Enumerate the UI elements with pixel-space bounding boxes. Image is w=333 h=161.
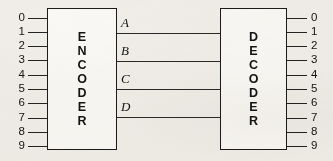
- bus-line-label: B: [121, 44, 129, 57]
- decoder-block: DECODER: [220, 8, 287, 150]
- decoder-letter: R: [249, 114, 258, 128]
- encoder-input-label: 6: [4, 97, 25, 109]
- encoder-letter: C: [77, 58, 86, 72]
- encoder-input-wire: [28, 60, 48, 61]
- decoder-output-label: 2: [311, 40, 329, 52]
- encoder-input-wire: [28, 89, 48, 90]
- decoder-output-label: 7: [311, 112, 329, 124]
- encoder-input-label: 7: [4, 112, 25, 124]
- decoder-output-label: 9: [311, 140, 329, 152]
- bus-line-label: D: [121, 100, 130, 113]
- decoder-letter: D: [249, 86, 258, 100]
- decoder-letter: E: [249, 44, 257, 58]
- encoder-input-wire: [28, 75, 48, 76]
- diagram-canvas: 0123456789 ENCODER ABCD DECODER 01234567…: [0, 0, 333, 161]
- decoder-output-wire: [287, 103, 307, 104]
- decoder-letter: D: [249, 30, 258, 44]
- encoder-label: ENCODER: [48, 9, 116, 149]
- encoder-input-label: 2: [4, 40, 25, 52]
- decoder-output-label: 0: [311, 12, 329, 24]
- encoder-input-wire: [28, 46, 48, 47]
- encoder-input-label: 8: [4, 126, 25, 138]
- decoder-output-wire: [287, 18, 307, 19]
- encoder-input-label: 5: [4, 83, 25, 95]
- encoder-block: ENCODER: [47, 8, 117, 150]
- decoder-output-wire: [287, 89, 307, 90]
- encoder-input-wire: [28, 118, 48, 119]
- decoder-letter: E: [249, 100, 257, 114]
- decoder-output-wire: [287, 75, 307, 76]
- decoder-output-label: 6: [311, 97, 329, 109]
- encoder-input-wire: [28, 146, 48, 147]
- decoder-output-label: 8: [311, 126, 329, 138]
- encoder-input-wire: [28, 32, 48, 33]
- decoder-output-label: 1: [311, 26, 329, 38]
- encoder-letter: E: [78, 100, 86, 114]
- bus-line-label: C: [121, 72, 130, 85]
- decoder-output-label: 5: [311, 83, 329, 95]
- encoder-input-label: 0: [4, 12, 25, 24]
- encoder-input-label: 3: [4, 54, 25, 66]
- encoder-input-label: 9: [4, 140, 25, 152]
- bus-line: [117, 117, 220, 118]
- decoder-output-wire: [287, 118, 307, 119]
- encoder-input-wire: [28, 132, 48, 133]
- encoder-input-label: 1: [4, 26, 25, 38]
- encoder-letter: E: [78, 30, 86, 44]
- decoder-output-label: 3: [311, 54, 329, 66]
- decoder-letter: O: [249, 72, 259, 86]
- encoder-letter: D: [77, 86, 86, 100]
- decoder-letter: C: [249, 58, 258, 72]
- encoder-input-wire: [28, 103, 48, 104]
- encoder-letter: O: [77, 72, 87, 86]
- bus-line: [117, 33, 220, 34]
- decoder-output-wire: [287, 46, 307, 47]
- decoder-output-wire: [287, 132, 307, 133]
- encoder-letter: N: [77, 44, 86, 58]
- decoder-label: DECODER: [221, 9, 286, 149]
- decoder-output-wire: [287, 32, 307, 33]
- bus-line: [117, 61, 220, 62]
- encoder-letter: R: [77, 114, 86, 128]
- decoder-output-wire: [287, 60, 307, 61]
- decoder-output-label: 4: [311, 69, 329, 81]
- encoder-input-wire: [28, 18, 48, 19]
- bus-line-label: A: [121, 16, 129, 29]
- bus-line: [117, 89, 220, 90]
- encoder-input-label: 4: [4, 69, 25, 81]
- decoder-output-wire: [287, 146, 307, 147]
